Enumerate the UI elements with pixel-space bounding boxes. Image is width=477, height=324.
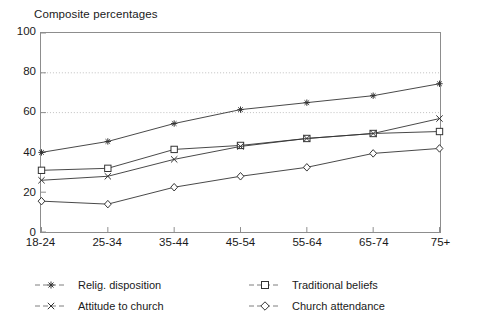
chart-figure: Composite percentages 020406080100 18-24…: [0, 0, 477, 324]
data-point-marker: [370, 93, 376, 99]
y-axis-tick-label: 20: [6, 187, 36, 199]
legend-item: Traditional beliefs: [248, 276, 378, 294]
x-axis-tick-label: 55-64: [292, 236, 321, 248]
x-axis-tick-label: 18-24: [26, 236, 55, 248]
data-point-marker: [303, 164, 310, 172]
data-point-marker: [237, 106, 243, 112]
x-marker-icon: [34, 299, 68, 313]
x-axis-tick-label: 65-74: [359, 236, 388, 248]
data-point-marker: [304, 99, 310, 105]
data-point-marker: [237, 142, 243, 148]
data-point-marker: [105, 165, 111, 171]
legend-label: Church attendance: [292, 300, 385, 312]
diamond-marker-icon: [248, 299, 282, 313]
chart-title: Composite percentages: [34, 8, 158, 20]
data-point-marker: [171, 146, 177, 152]
data-point-marker: [237, 173, 244, 181]
x-axis-tick-labels: 18-2425-3435-4445-5455-6465-7475+: [0, 236, 477, 254]
data-point-marker: [436, 145, 443, 153]
data-point-marker: [104, 200, 111, 208]
x-axis-tick-label: 35-44: [159, 236, 188, 248]
legend-label: Attitude to church: [78, 300, 164, 312]
chart-legend: Relig. disposition Attitude to church Tr…: [34, 276, 454, 318]
legend-item: Attitude to church: [34, 297, 164, 315]
data-point-marker: [38, 167, 44, 173]
data-point-marker: [436, 128, 442, 134]
y-axis-tick-label: 60: [6, 106, 36, 118]
plot-area: [40, 32, 441, 233]
plot-canvas: [41, 33, 440, 232]
legend-label: Relig. disposition: [78, 279, 161, 291]
star-marker-icon: [34, 278, 68, 292]
series-church-attendance: [38, 145, 443, 208]
series-line: [41, 119, 439, 181]
y-axis-tick-label: 100: [6, 26, 36, 38]
x-axis-tick-label: 75+: [431, 236, 451, 248]
y-axis-tick-label: 80: [6, 66, 36, 78]
y-axis-tick-label: 40: [6, 147, 36, 159]
y-axis-tick-labels: 020406080100: [0, 0, 36, 324]
x-axis-tick-label: 45-54: [226, 236, 255, 248]
data-point-marker: [171, 183, 178, 191]
data-point-marker: [171, 120, 177, 126]
data-point-marker: [436, 115, 442, 121]
data-point-marker: [38, 197, 45, 205]
data-point-marker: [436, 81, 442, 87]
legend-item: Church attendance: [248, 297, 385, 315]
x-axis-tick-label: 25-34: [92, 236, 121, 248]
legend-label: Traditional beliefs: [292, 279, 378, 291]
series-traditional-beliefs: [38, 128, 442, 173]
square-marker-icon: [248, 278, 282, 292]
data-point-marker: [38, 149, 44, 155]
series-line: [41, 132, 439, 171]
data-point-marker: [370, 150, 377, 158]
data-point-marker: [105, 138, 111, 144]
legend-item: Relig. disposition: [34, 276, 161, 294]
